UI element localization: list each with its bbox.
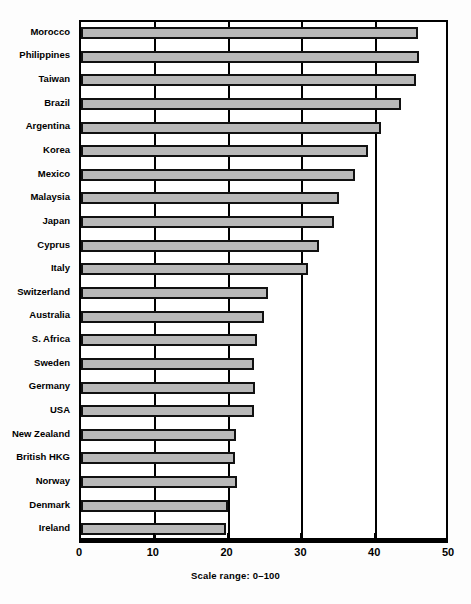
bar-row [81, 117, 450, 141]
bar-chart: MoroccoPhilippinesTaiwanBrazilArgentinaK… [0, 0, 471, 604]
category-label: Argentina [0, 121, 70, 131]
category-label: Ireland [0, 523, 70, 533]
bar-row [81, 471, 450, 495]
x-tick-label: 0 [64, 546, 94, 558]
category-label: Denmark [0, 500, 70, 510]
bar-row [81, 235, 450, 259]
bar-row [81, 424, 450, 448]
x-tick-label: 40 [359, 546, 389, 558]
bar-row [81, 377, 450, 401]
x-axis-line [79, 540, 448, 543]
bar [81, 287, 268, 299]
bar-row [81, 140, 450, 164]
x-axis: 01020304050 [79, 540, 448, 550]
category-axis-labels: MoroccoPhilippinesTaiwanBrazilArgentinaK… [0, 20, 76, 540]
bar [81, 27, 418, 39]
bar [81, 476, 237, 488]
plot-area [79, 20, 448, 540]
bar [81, 382, 255, 394]
bar-row [81, 518, 450, 542]
category-label: Italy [0, 263, 70, 273]
bar [81, 169, 355, 181]
bar-row [81, 211, 450, 235]
category-label: Korea [0, 145, 70, 155]
category-label: USA [0, 405, 70, 415]
category-label: British HKG [0, 452, 70, 462]
bar-row [81, 46, 450, 70]
bar [81, 452, 235, 464]
bar-row [81, 164, 450, 188]
category-label: Malaysia [0, 192, 70, 202]
x-tick-50 [446, 533, 448, 541]
x-tick-40 [374, 533, 376, 541]
bar-row [81, 22, 450, 46]
category-label: Philippines [0, 50, 70, 60]
category-label: Taiwan [0, 74, 70, 84]
x-tick-20 [227, 533, 229, 541]
bar [81, 311, 264, 323]
bar-row [81, 306, 450, 330]
bar-row [81, 258, 450, 282]
bar-row [81, 400, 450, 424]
bar-row [81, 353, 450, 377]
bar-row [81, 187, 450, 211]
x-tick-0 [79, 533, 81, 541]
category-label: New Zealand [0, 429, 70, 439]
x-tick-30 [300, 533, 302, 541]
x-tick-label: 10 [138, 546, 168, 558]
chart-caption: Scale range: 0–100 [0, 570, 471, 581]
bar-row [81, 282, 450, 306]
x-tick-label: 50 [433, 546, 463, 558]
category-label: Japan [0, 216, 70, 226]
x-tick-label: 20 [212, 546, 242, 558]
bar [81, 98, 401, 110]
bar [81, 74, 416, 86]
category-label: Australia [0, 310, 70, 320]
bar [81, 263, 308, 275]
category-label: S. Africa [0, 334, 70, 344]
category-label: Switzerland [0, 287, 70, 297]
bar [81, 429, 236, 441]
bar-row [81, 447, 450, 471]
x-tick-label: 30 [285, 546, 315, 558]
category-label: Mexico [0, 169, 70, 179]
bar-row [81, 329, 450, 353]
category-label: Norway [0, 476, 70, 486]
bar-row [81, 69, 450, 93]
category-label: Germany [0, 381, 70, 391]
bar [81, 334, 257, 346]
bar [81, 192, 339, 204]
bar [81, 51, 419, 63]
x-tick-10 [153, 533, 155, 541]
bar [81, 145, 368, 157]
category-label: Cyprus [0, 240, 70, 250]
bar [81, 240, 319, 252]
bar [81, 500, 228, 512]
category-label: Sweden [0, 358, 70, 368]
bar [81, 122, 381, 134]
bar [81, 358, 254, 370]
category-label: Morocco [0, 27, 70, 37]
bar-row [81, 93, 450, 117]
category-label: Brazil [0, 98, 70, 108]
bar-row [81, 495, 450, 519]
bar [81, 216, 334, 228]
bar [81, 405, 254, 417]
